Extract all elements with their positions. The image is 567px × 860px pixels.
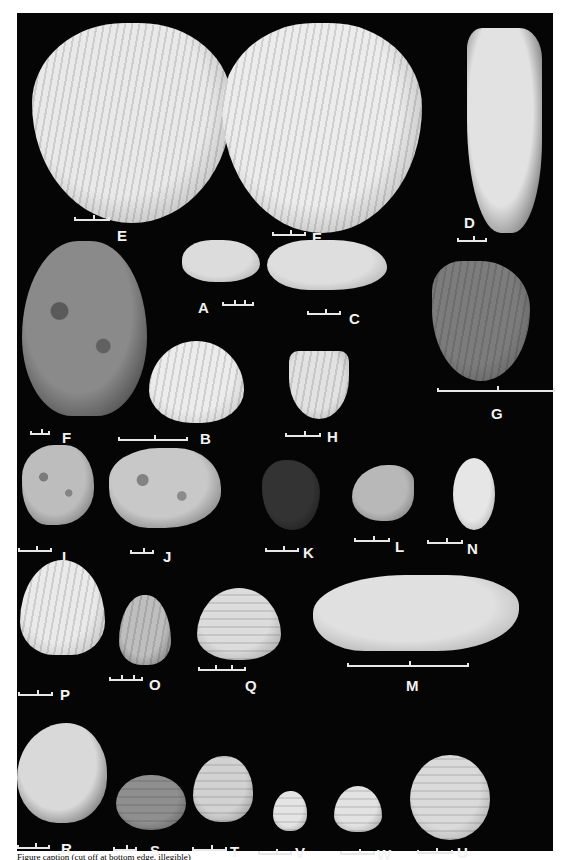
shell-photo-venus-tall	[273, 791, 307, 831]
scale-bar	[192, 847, 227, 851]
scale-bar-tick	[37, 690, 39, 694]
specimen-label: C	[349, 311, 360, 326]
scale-bar	[113, 847, 137, 851]
shell-photo-scallop-inner	[32, 23, 232, 223]
scale-bar-tick	[36, 546, 38, 550]
shell-photo-lens	[453, 458, 495, 530]
scale-bar-tick	[154, 435, 156, 439]
shell-photo-scallop-small	[289, 351, 349, 419]
figure-plate: EEDFACGBHIJKLNPOQMRSTVWU	[17, 13, 553, 851]
shell-photo-scallop-ribbed	[432, 261, 530, 381]
shell-photo-cockle-ribbed	[119, 595, 171, 665]
scale-bar-tick	[373, 536, 375, 540]
scale-bar	[285, 433, 321, 437]
scale-bar	[222, 302, 254, 306]
specimen-label: H	[327, 429, 338, 444]
scale-bar-tick	[283, 546, 285, 550]
scale-bar-tick	[473, 236, 475, 240]
shell-photo-coral	[109, 448, 221, 528]
scale-bar-tick	[234, 300, 236, 304]
shell-photo-scallop-inner	[222, 23, 422, 233]
scale-bar	[18, 548, 52, 552]
shell-photo-cockle	[149, 341, 244, 423]
scale-bar-tick	[121, 675, 123, 679]
shell-photo-elongate	[467, 28, 542, 233]
scale-bar-tick	[497, 386, 499, 390]
scale-bar	[18, 692, 53, 696]
scale-bar-tick	[93, 215, 95, 219]
scale-bar-tick	[436, 848, 438, 852]
specimen-label: G	[491, 406, 503, 421]
scale-bar	[272, 232, 306, 236]
scale-bar	[74, 217, 110, 221]
scale-bar-tick	[446, 538, 448, 542]
specimen-label: A	[198, 300, 209, 315]
caption-text: Figure caption (cut off at bottom edge, …	[17, 853, 553, 860]
scale-bar-tick	[41, 429, 43, 433]
scale-bar	[437, 388, 555, 392]
shell-photo-mussel	[262, 460, 320, 530]
specimen-label: P	[60, 687, 70, 702]
scale-bar	[354, 538, 390, 542]
shell-photo-coral	[22, 445, 94, 525]
scale-bar-tick	[133, 675, 135, 679]
scale-bar	[307, 311, 341, 315]
scale-bar	[130, 550, 154, 554]
scale-bar-tick	[215, 665, 217, 669]
shell-photo-venus	[197, 588, 281, 660]
specimen-label: F	[62, 430, 71, 445]
specimen-label: E	[117, 228, 127, 243]
specimen-label: M	[406, 678, 419, 693]
scale-bar-tick	[244, 300, 246, 304]
scale-bar	[109, 677, 143, 681]
specimen-label: N	[467, 541, 478, 556]
shell-photo-venus	[334, 786, 382, 832]
scale-bar	[17, 845, 50, 849]
scale-bar	[118, 437, 188, 441]
specimen-label: K	[303, 545, 314, 560]
shell-photo-round	[410, 755, 490, 840]
scale-bar	[198, 667, 246, 671]
shell-photo-oval	[116, 775, 186, 830]
scale-bar-tick	[126, 845, 128, 849]
specimen-label: D	[464, 215, 475, 230]
scale-bar-tick	[325, 309, 327, 313]
shell-photo-cockle-tall	[20, 560, 105, 655]
scale-bar	[347, 663, 469, 667]
specimen-label: O	[149, 677, 161, 692]
scale-bar-tick	[143, 548, 145, 552]
scale-bar-tick	[290, 230, 292, 234]
scale-bar-tick	[231, 665, 233, 669]
shell-photo-oyster	[22, 241, 147, 416]
scale-bar	[265, 548, 299, 552]
specimen-label: B	[200, 431, 211, 446]
shell-photo-venus-tall	[193, 756, 253, 822]
shell-photo-razor	[313, 575, 519, 651]
scale-bar	[427, 540, 463, 544]
shell-photo-zigzag	[17, 723, 107, 823]
shell-photo-ark-long	[267, 240, 387, 290]
scale-bar-tick	[35, 843, 37, 847]
specimen-label: Q	[245, 678, 257, 693]
specimen-label: L	[395, 539, 404, 554]
figure-caption: Figure caption (cut off at bottom edge, …	[17, 853, 553, 860]
shell-photo-mussel-light	[352, 465, 414, 521]
scale-bar-tick	[211, 845, 213, 849]
scale-bar-tick	[304, 431, 306, 435]
scale-bar-tick	[409, 661, 411, 665]
specimen-label: J	[163, 549, 171, 564]
scale-bar	[457, 238, 487, 242]
shell-photo-ark	[182, 240, 260, 282]
scale-bar	[30, 431, 50, 435]
